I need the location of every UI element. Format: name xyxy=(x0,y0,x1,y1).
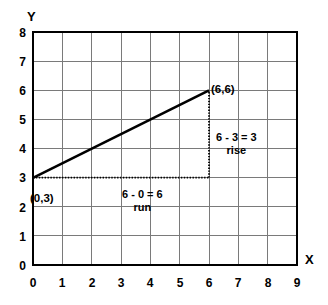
x-tick-7: 7 xyxy=(230,277,246,289)
y-tick-7: 7 xyxy=(12,56,26,68)
y-axis-label: Y xyxy=(27,10,36,23)
rise-annotation: 6 - 3 = 3 rise xyxy=(216,131,257,158)
y-tick-3: 3 xyxy=(12,172,26,184)
x-tick-2: 2 xyxy=(84,277,100,289)
x-tick-0: 0 xyxy=(25,277,41,289)
horizontal-gridlines xyxy=(33,61,297,236)
run-word: run xyxy=(122,201,163,214)
rise-expression: 6 - 3 = 3 xyxy=(216,131,257,144)
y-tick-8: 8 xyxy=(12,27,26,39)
y-tick-4: 4 xyxy=(12,143,26,155)
point-label-0-3: (0,3) xyxy=(30,191,54,205)
x-tick-9: 9 xyxy=(289,277,305,289)
rise-word: rise xyxy=(216,144,257,157)
x-tick-3: 3 xyxy=(113,277,129,289)
y-tick-5: 5 xyxy=(12,114,26,126)
run-annotation: 6 - 0 = 6 run xyxy=(122,188,163,215)
point-label-6-6: (6,6) xyxy=(211,82,235,96)
coordinate-plane xyxy=(0,0,328,305)
x-tick-1: 1 xyxy=(54,277,70,289)
x-tick-8: 8 xyxy=(260,277,276,289)
y-tick-1: 1 xyxy=(12,231,26,243)
x-tick-5: 5 xyxy=(172,277,188,289)
slope-graph-figure: Y X 8 7 6 5 4 3 2 1 0 0 1 2 3 4 5 6 7 8 … xyxy=(0,0,328,305)
x-tick-6: 6 xyxy=(201,277,217,289)
y-tick-2: 2 xyxy=(12,202,26,214)
run-expression: 6 - 0 = 6 xyxy=(122,188,163,201)
y-tick-0: 0 xyxy=(12,260,26,272)
x-axis-label: X xyxy=(305,253,314,266)
x-tick-4: 4 xyxy=(142,277,158,289)
y-tick-6: 6 xyxy=(12,85,26,97)
